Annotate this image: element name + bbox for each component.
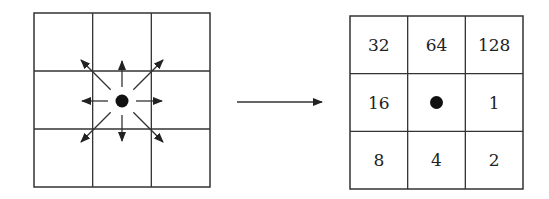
code-cell-2-1: 4 — [431, 150, 442, 170]
code-cell-0-1: 64 — [426, 35, 448, 55]
code-cell-2-0: 8 — [373, 150, 384, 170]
code-cell-0-2: 128 — [478, 35, 510, 55]
arrow-nw — [81, 60, 111, 90]
arrow-se — [133, 112, 163, 142]
diagram: 3264128161842 — [0, 0, 549, 199]
arrow-sw — [81, 112, 111, 142]
code-cell-0-0: 32 — [368, 35, 390, 55]
arrow-ne — [133, 60, 163, 90]
code-cell-1-2: 1 — [489, 93, 500, 113]
code-cell-1-0: 16 — [368, 93, 390, 113]
center-pixel-dot-coded — [430, 96, 443, 109]
code-cell-2-2: 2 — [489, 150, 500, 170]
center-pixel-dot — [116, 95, 129, 108]
